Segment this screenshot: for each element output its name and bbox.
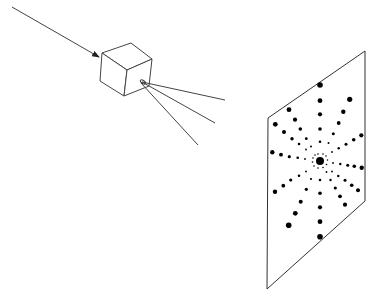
- diffraction-spot: [344, 179, 347, 182]
- diffraction-spot: [326, 171, 328, 173]
- diffraction-spot: [279, 153, 283, 157]
- diffraction-spot: [359, 133, 363, 137]
- diffraction-spot: [296, 156, 299, 159]
- diffraction-spot: [305, 149, 307, 151]
- diffraction-spot: [338, 147, 340, 149]
- diffraction-spot: [290, 137, 293, 140]
- inner-ring-spot: [322, 167, 324, 169]
- diffraction-spot: [331, 171, 333, 173]
- diffraction-spot: [318, 192, 322, 196]
- diffraction-spot: [273, 122, 278, 127]
- diffraction-spot: [343, 203, 347, 207]
- diffraction-spot: [334, 186, 337, 189]
- diffraction-spot: [288, 155, 291, 158]
- diffraction-spot: [305, 137, 308, 140]
- inner-ring-spot: [313, 165, 315, 167]
- diffraction-spot: [339, 163, 341, 165]
- diffraction-spot: [298, 174, 301, 177]
- diffraction-spot: [305, 171, 307, 173]
- diffraction-spot: [337, 121, 341, 125]
- diffraction-spot: [289, 178, 292, 181]
- diffraction-spot: [338, 194, 342, 198]
- diffraction-spot: [293, 118, 297, 122]
- crystal-cube: [100, 43, 152, 96]
- diffraction-spot: [352, 138, 356, 142]
- incident-beam-arrow: [12, 7, 99, 57]
- diffraction-spot: [337, 175, 339, 177]
- diffraction-spot: [328, 142, 330, 144]
- diffraction-spot: [287, 107, 292, 112]
- diffraction-spot: [347, 97, 352, 102]
- diagram-canvas: [0, 0, 380, 301]
- inner-ring-spot: [312, 161, 314, 163]
- inner-ring-spot: [317, 167, 319, 169]
- diffraction-spot: [332, 162, 334, 164]
- diffraction-spot: [318, 205, 322, 209]
- diffraction-spot: [319, 179, 322, 182]
- diffracted-ray: [142, 82, 215, 123]
- inner-ring-spot: [325, 155, 327, 157]
- diffraction-spot: [273, 190, 277, 194]
- diffracted-rays: [141, 82, 225, 145]
- diffraction-spot: [346, 164, 349, 167]
- diffraction-spot: [356, 188, 360, 192]
- diffraction-spot: [317, 234, 323, 240]
- diffraction-diagram: [0, 0, 380, 301]
- diffraction-spot: [310, 178, 312, 180]
- diffraction-spot: [360, 166, 364, 170]
- inner-ring-spot: [314, 154, 316, 156]
- inner-ring-spot: [326, 164, 328, 166]
- diffraction-spot: [286, 223, 292, 229]
- diffraction-spot: [270, 150, 274, 154]
- diffraction-spot: [281, 184, 285, 188]
- diffraction-spot: [299, 127, 303, 131]
- inner-ring-spot: [322, 153, 324, 155]
- diffraction-spot: [319, 140, 322, 143]
- diffraction-spot: [299, 200, 303, 204]
- diffraction-spot: [331, 151, 333, 153]
- diffraction-spot: [318, 127, 322, 131]
- diffraction-spot: [345, 143, 348, 146]
- diffraction-spot: [350, 184, 354, 188]
- diffraction-spot: [305, 188, 308, 191]
- diffraction-spot: [341, 110, 345, 114]
- inner-ring-spot: [317, 153, 319, 155]
- diffraction-spot: [293, 211, 298, 216]
- central-beam-spot: [316, 157, 324, 165]
- diffraction-spot: [353, 165, 357, 169]
- diffraction-spot: [318, 98, 323, 103]
- diffraction-spot: [298, 143, 301, 146]
- diffraction-spot: [329, 179, 331, 181]
- diffraction-spot: [318, 112, 322, 116]
- diffraction-spot: [332, 132, 335, 135]
- inner-ring-spot: [327, 159, 329, 161]
- diffraction-spot: [318, 219, 323, 224]
- diffraction-spot: [317, 82, 323, 88]
- inner-ring-spot: [312, 157, 314, 159]
- diffraction-spot: [304, 158, 306, 160]
- diffraction-spot: [282, 130, 286, 134]
- diffraction-spot: [310, 146, 312, 148]
- detector-screen: [267, 51, 365, 289]
